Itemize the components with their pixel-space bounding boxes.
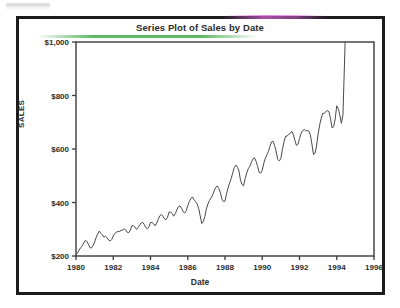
y-tick-label: $600	[51, 145, 69, 154]
y-tick-label: $1,000	[45, 38, 70, 47]
x-tick-label: 1984	[142, 263, 160, 272]
x-axis-ticks: 198019821984198619881990199219941996	[67, 256, 383, 272]
y-tick-label: $400	[51, 199, 69, 208]
y-tick-label: $800	[51, 92, 69, 101]
x-tick-label: 1990	[253, 263, 271, 272]
x-tick-label: 1994	[328, 263, 346, 272]
chart-plot-area: $200$400$600$800$1,000 19801982198419861…	[0, 0, 400, 308]
x-tick-label: 1986	[179, 263, 197, 272]
x-tick-label: 1992	[291, 263, 309, 272]
x-tick-label: 1988	[216, 263, 234, 272]
y-tick-label: $200	[51, 252, 69, 261]
y-axis-ticks: $200$400$600$800$1,000	[45, 38, 76, 261]
sales-series-line	[76, 42, 345, 255]
x-tick-label: 1996	[365, 263, 383, 272]
x-tick-label: 1982	[104, 263, 122, 272]
x-tick-label: 1980	[67, 263, 85, 272]
axis-frame-lines	[76, 42, 374, 256]
